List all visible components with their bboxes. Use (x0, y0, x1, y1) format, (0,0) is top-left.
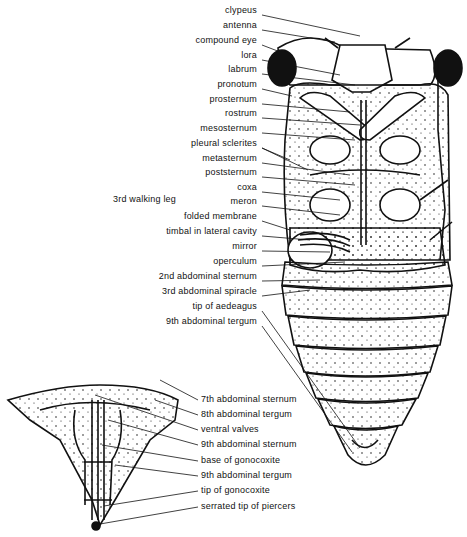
label-3rd-abdominal-spiracle: 3rd abdominal spiracle (162, 286, 257, 296)
label-operculum: operculum (213, 256, 257, 266)
label-timbal: timbal in lateral cavity (166, 226, 257, 236)
label-7th-abdominal-sternum: 7th abdominal sternum (201, 394, 297, 404)
label-9th-abdominal-sternum: 9th abdominal sternum (201, 439, 297, 449)
label-8th-abdominal-tergum: 8th abdominal tergum (201, 409, 292, 419)
label-metasternum: metasternum (202, 153, 257, 163)
label-compound-eye: compound eye (196, 35, 257, 45)
label-tip-of-gonocoxite: tip of gonocoxite (201, 485, 270, 495)
label-coxa: coxa (237, 182, 257, 192)
label-labrum: labrum (228, 64, 257, 74)
label-antenna: antenna (223, 20, 257, 30)
label-prosternum: prosternum (209, 94, 257, 104)
label-mesosternum: mesosternum (200, 123, 257, 133)
label-pronotum: pronotum (217, 79, 257, 89)
ovipositor-detail (8, 385, 178, 530)
label-tip-of-aedeagus: tip of aedeagus (192, 301, 257, 311)
label-meron: meron (230, 196, 257, 206)
label-9th-abdominal-tergum-ovi: 9th abdominal tergum (201, 470, 292, 480)
label-9th-abdominal-tergum: 9th abdominal tergum (166, 316, 257, 326)
label-2nd-abdominal-sternum: 2nd abdominal sternum (159, 271, 257, 281)
label-mirror: mirror (232, 241, 257, 251)
label-serrated-tip: serrated tip of piercers (201, 501, 295, 511)
label-base-of-gonocoxite: base of gonocoxite (201, 455, 280, 465)
label-poststernum: poststernum (205, 167, 257, 177)
label-clypeus: clypeus (225, 5, 257, 15)
label-ventral-valves: ventral valves (201, 424, 259, 434)
label-folded-membrane: folded membrane (184, 211, 257, 221)
label-rostrum: rostrum (225, 108, 257, 118)
label-lora: lora (241, 50, 257, 60)
compound-eye-left (268, 50, 296, 86)
label-pleural-sclerites: pleural sclerites (191, 138, 257, 148)
label-3rd-walking-leg: 3rd walking leg (113, 194, 176, 204)
